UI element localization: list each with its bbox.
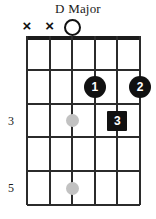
fret-line: [27, 204, 140, 206]
fretboard-grid: 123: [27, 36, 140, 205]
chord-diagram: D Major ×× 123 35: [0, 0, 156, 219]
string-line: [94, 36, 96, 205]
string-line: [49, 36, 51, 205]
fret-line: [27, 136, 140, 138]
fret-inlay-dot: [66, 182, 79, 195]
fret-inlay-dot: [66, 114, 79, 127]
fret-number-label: 3: [0, 115, 22, 127]
open-string-icon: [63, 17, 81, 35]
string-line: [26, 36, 28, 205]
fret-line: [27, 69, 140, 71]
finger-marker[interactable]: 2: [129, 76, 151, 98]
nut-line: [26, 36, 141, 40]
muted-string-icon: ×: [41, 17, 59, 35]
muted-string-icon: ×: [18, 17, 36, 35]
finger-marker[interactable]: 1: [84, 76, 106, 98]
fret-number-label: 5: [0, 182, 22, 194]
fret-line: [27, 170, 140, 172]
string-line: [139, 36, 141, 205]
fret-line: [27, 103, 140, 105]
finger-marker[interactable]: 3: [107, 111, 127, 131]
chord-title: D Major: [0, 1, 156, 16]
open-muted-marker-row: ××: [0, 17, 156, 35]
